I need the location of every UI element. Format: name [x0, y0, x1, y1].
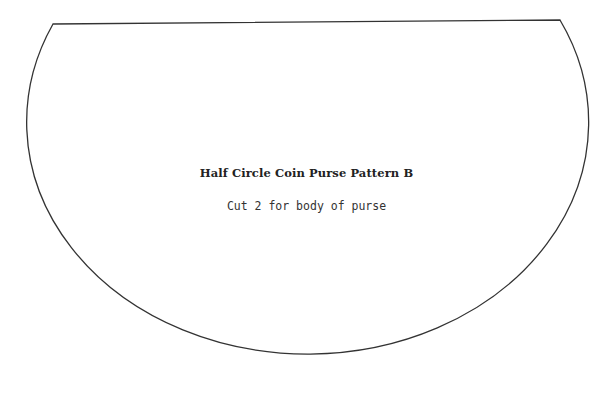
cut-instruction: Cut 2 for body of purse: [0, 199, 613, 213]
pattern-page: Half Circle Coin Purse Pattern B Cut 2 f…: [0, 0, 613, 406]
pattern-title: Half Circle Coin Purse Pattern B: [0, 166, 613, 180]
